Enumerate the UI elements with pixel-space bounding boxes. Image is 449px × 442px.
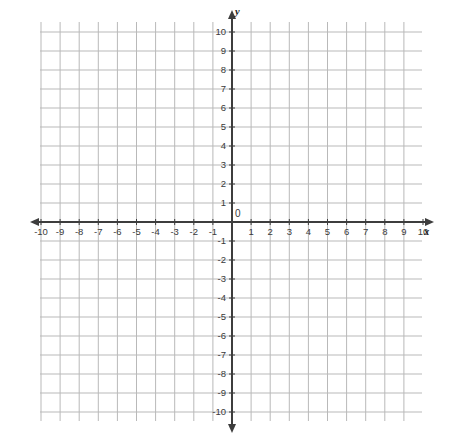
y-tick-label-2: 2 [202,179,226,189]
x-axis-right-arrow-icon [425,218,434,226]
y-tick-label-8: 8 [202,65,226,75]
y-tick-label-5: 5 [202,122,226,132]
x-tick-label-9: 9 [401,227,406,237]
y-tick-label-neg8: -8 [202,369,226,379]
y-tick-label-4: 4 [202,141,226,151]
y-tick-label-neg1: -1 [202,236,226,246]
axis-lines [34,14,430,430]
y-tick-label-neg10: -10 [202,407,226,417]
x-tick-label-neg2: -2 [190,227,198,237]
x-axis-label: x [424,226,429,237]
y-tick-label-3: 3 [202,160,226,170]
x-tick-label-5: 5 [325,227,330,237]
x-tick-label-7: 7 [363,227,368,237]
y-tick-label-9: 9 [202,46,226,56]
x-tick-label-neg4: -4 [151,227,159,237]
y-tick-label-6: 6 [202,103,226,113]
x-tick-label-neg6: -6 [113,227,121,237]
x-tick-label-neg9: -9 [56,227,64,237]
y-axis-down-arrow-icon [228,424,236,433]
x-tick-label-8: 8 [382,227,387,237]
x-tick-label-neg10: -10 [34,227,48,237]
x-tick-label-neg3: -3 [170,227,178,237]
y-tick-label-neg2: -2 [202,255,226,265]
x-tick-label-1: 1 [248,227,253,237]
y-tick-label-10: 10 [202,27,226,37]
x-tick-label-6: 6 [344,227,349,237]
x-tick-label-4: 4 [306,227,311,237]
y-tick-label-neg5: -5 [202,312,226,322]
y-tick-label-neg9: -9 [202,388,226,398]
x-tick-label-neg7: -7 [94,227,102,237]
y-tick-label-7: 7 [202,84,226,94]
x-tick-label-neg5: -5 [132,227,140,237]
x-tick-label-neg8: -8 [75,227,83,237]
y-tick-label-neg6: -6 [202,331,226,341]
y-tick-label-neg4: -4 [202,293,226,303]
y-tick-label-neg3: -3 [202,274,226,284]
y-tick-label-1: 1 [202,198,226,208]
x-axis-left-arrow-icon [30,218,39,226]
y-axis-label: y [235,6,240,17]
x-tick-label-3: 3 [287,227,292,237]
y-tick-label-neg7: -7 [202,350,226,360]
origin-label: 0 [235,208,241,219]
x-tick-label-2: 2 [268,227,273,237]
coordinate-plane-figure: -10-9-8-7-6-5-4-3-2-112345678910 1098765… [0,0,449,442]
